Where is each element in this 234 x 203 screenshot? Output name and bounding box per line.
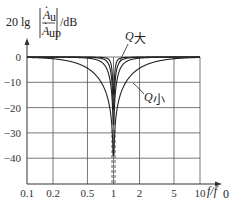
tick-labels: 0.10.20.5125100−10−20−30−40	[4, 51, 206, 199]
annotation-q-small: Q	[144, 90, 153, 104]
x-tick-label: 0.5	[81, 187, 95, 199]
y-tick-label: 0	[16, 51, 22, 63]
y-label-num-sub: u	[50, 10, 56, 24]
y-tick-label: −30	[4, 127, 22, 139]
x-axis-title-sub: 0	[223, 187, 229, 201]
y-tick-label: −40	[4, 152, 22, 164]
x-axis-title: f/f	[207, 184, 219, 198]
x-axis-label: f/f0	[207, 184, 229, 201]
x-tick-label: 0.2	[46, 187, 60, 199]
x-tick-label: 0.1	[20, 187, 34, 199]
y-tick-label: −10	[4, 76, 22, 88]
y-axis-arrow-icon	[25, 38, 30, 45]
leader-q-big	[119, 44, 128, 63]
leader-q-small	[133, 83, 144, 94]
x-tick-label: 10	[195, 187, 207, 199]
x-tick-label: 1	[111, 187, 117, 199]
y-axis-label: 20 lgAu·Aup·/dB	[6, 0, 77, 40]
axes	[25, 38, 223, 187]
annotation-q-big-sub: 大	[134, 32, 146, 46]
dot-icon: ·	[44, 16, 48, 30]
notch-filter-chart: 0.10.20.5125100−10−20−30−40 Q大Q小 20 lgAu…	[0, 0, 234, 203]
y-label-prefix: 20 lg	[6, 15, 30, 29]
y-tick-label: −20	[4, 102, 22, 114]
annotation-q-big: Q	[125, 29, 134, 43]
dot-icon: ·	[45, 0, 49, 14]
annotations: Q大Q小	[119, 29, 165, 107]
x-tick-label: 2	[137, 187, 143, 199]
annotation-q-small-sub: 小	[153, 93, 165, 107]
x-tick-label: 5	[171, 187, 177, 199]
y-label-unit: /dB	[60, 15, 77, 29]
